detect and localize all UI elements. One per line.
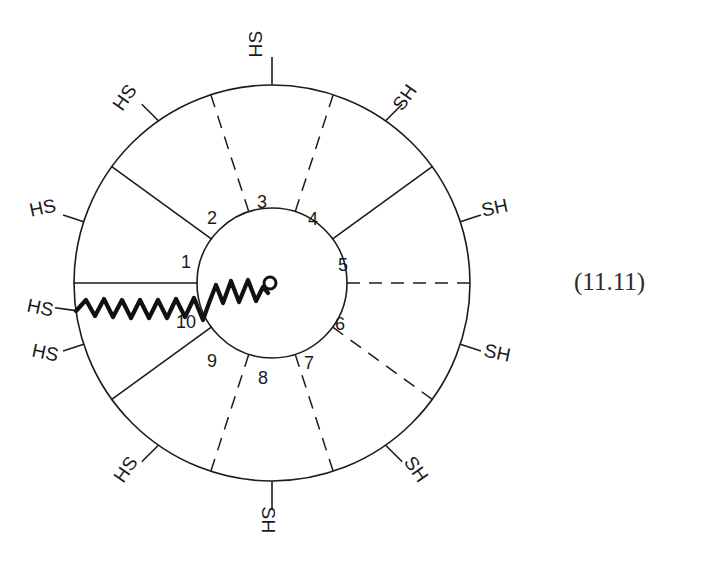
spoke-10 — [112, 327, 212, 399]
wavy-chain-path — [76, 280, 268, 320]
thiol-tick-left-upper — [63, 215, 84, 222]
spoke-8 — [295, 354, 333, 471]
sector-number-9: 9 — [207, 351, 217, 371]
thiol-tick-lower-right — [386, 445, 403, 462]
spoke-3 — [211, 95, 249, 212]
thiol-label-left-upper: HS — [27, 195, 58, 221]
sector-number-8: 8 — [258, 368, 268, 388]
inner-circle — [197, 208, 347, 358]
spoke-2 — [112, 167, 212, 239]
sector-number-10: 10 — [176, 312, 196, 332]
spoke-9 — [211, 354, 249, 471]
sector-number-2: 2 — [207, 208, 217, 228]
thiol-tick-right-upper — [460, 215, 481, 222]
thiol-label-bottom: SH — [258, 507, 279, 534]
spoke-4 — [295, 95, 333, 212]
thiol-tick-upper-left — [142, 104, 159, 121]
thiol-label-left-mid: HS — [25, 295, 56, 321]
spoke-7 — [333, 327, 433, 399]
thiol-label-left-lower: HS — [30, 340, 61, 366]
thiol-tick-left-lower — [63, 344, 84, 351]
thiol-tick-right-lower — [460, 344, 481, 351]
sector-number-1: 1 — [181, 252, 191, 272]
thiol-tick-left-mid — [55, 308, 76, 311]
thiol-tick-lower-left — [142, 445, 159, 462]
chain-end-open-circle — [264, 277, 276, 289]
sector-number-3: 3 — [257, 192, 267, 212]
thiol-label-upper-left: HS — [108, 80, 141, 114]
thiol-label-top: HS — [245, 31, 266, 58]
sector-number-7: 7 — [304, 353, 314, 373]
equation-number: (11.11) — [574, 268, 645, 296]
figure-container: HS SH SH SH SH SH HS HS HS HS HS 1 2 3 4… — [0, 0, 711, 569]
thiol-label-right-upper: SH — [479, 195, 510, 221]
thiol-labels-group: HS SH SH SH SH SH HS HS HS HS HS — [25, 31, 513, 534]
sector-number-5: 5 — [338, 255, 348, 275]
thiol-label-lower-left: HS — [109, 452, 142, 486]
sector-number-6: 6 — [335, 314, 345, 334]
thiol-label-right-lower: SH — [482, 340, 513, 366]
spoke-5 — [333, 167, 433, 239]
sector-number-4: 4 — [308, 209, 318, 229]
thiol-label-upper-right: SH — [388, 80, 421, 114]
thiol-label-lower-right: SH — [400, 452, 433, 486]
